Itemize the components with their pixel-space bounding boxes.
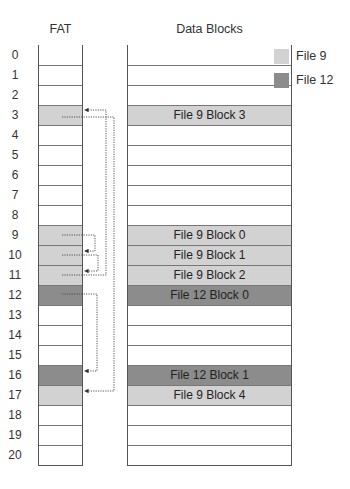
fat-link-arrow (62, 294, 97, 371)
fat-link-arrow (62, 235, 95, 251)
fat-chain-arrows (0, 0, 350, 489)
fat-link-arrow (62, 255, 98, 271)
fat-link-arrow (62, 110, 106, 275)
